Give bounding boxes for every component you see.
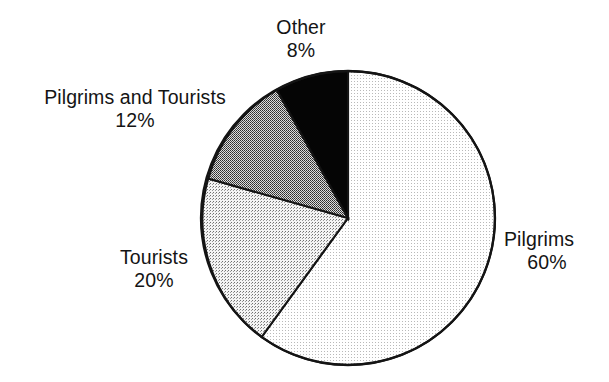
pie-label-pilgrims-value: 60% <box>504 251 590 274</box>
pie-label-tourists-name: Tourists <box>96 246 212 269</box>
pie-label-other: Other 8% <box>236 16 366 62</box>
pie-label-pilgrims: Pilgrims 60% <box>504 228 600 274</box>
pie-label-tourists-value: 20% <box>96 269 212 292</box>
pie-chart: Other 8% Pilgrims and Tourists 12% Touri… <box>0 0 609 382</box>
pie-label-pilgrims-and-tourists-name: Pilgrims and Tourists <box>18 86 252 109</box>
pie-label-other-value: 8% <box>236 39 366 62</box>
pie-label-pilgrims-and-tourists-value: 12% <box>18 109 252 132</box>
pie-label-pilgrims-name: Pilgrims <box>504 228 600 251</box>
pie-label-other-name: Other <box>236 16 366 39</box>
pie-label-pilgrims-and-tourists: Pilgrims and Tourists 12% <box>18 86 252 132</box>
pie-label-tourists: Tourists 20% <box>96 246 212 292</box>
